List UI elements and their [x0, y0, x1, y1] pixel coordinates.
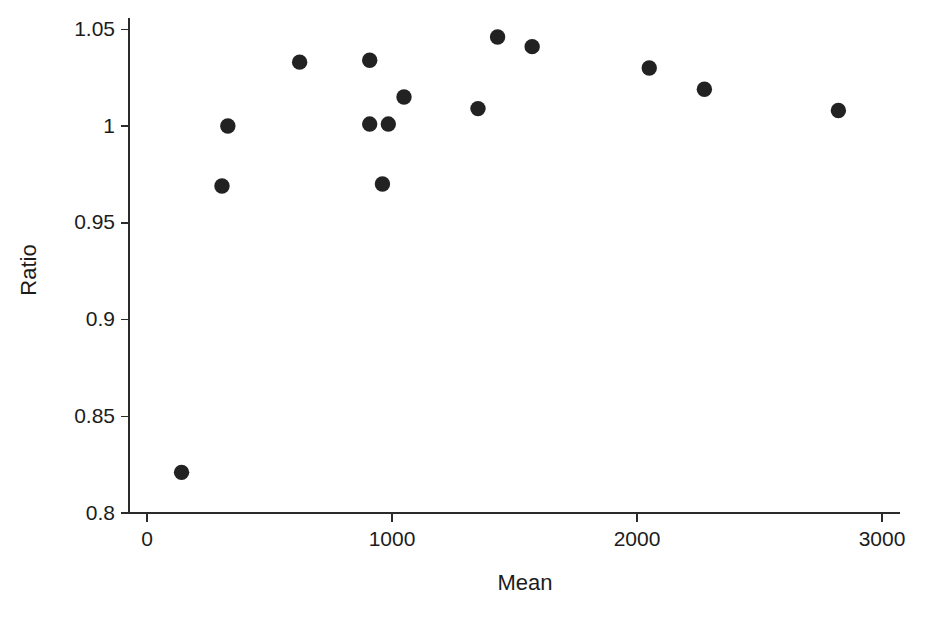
y-tick-label: 1.05 [74, 17, 115, 40]
scatter-point [490, 29, 505, 44]
y-tick-label: 0.85 [74, 404, 115, 427]
x-tick-label: 0 [141, 527, 153, 550]
y-axis-title: Ratio [16, 244, 41, 295]
x-tick-label: 1000 [369, 527, 416, 550]
scatter-point [362, 116, 377, 131]
scatter-point [642, 60, 657, 75]
scatter-point [396, 89, 411, 104]
scatter-point [524, 39, 539, 54]
scatter-point [292, 54, 307, 69]
plot-canvas: 0.80.850.90.9511.05 0100020003000 Mean R… [0, 0, 943, 618]
y-tick-label: 0.9 [86, 307, 115, 330]
scatter-point [375, 176, 390, 191]
x-axis: 0100020003000 [129, 513, 905, 550]
y-axis: 0.80.850.90.9511.05 [74, 17, 129, 524]
data-points-layer [174, 29, 846, 480]
x-tick-label: 2000 [614, 527, 661, 550]
y-tick-label: 1 [103, 114, 115, 137]
y-tick-label: 0.8 [86, 501, 115, 524]
scatter-point [214, 178, 229, 193]
scatter-point [381, 116, 396, 131]
scatter-point [697, 82, 712, 97]
scatter-point [362, 53, 377, 68]
x-tick-label: 3000 [859, 527, 906, 550]
x-axis-title: Mean [497, 570, 552, 595]
scatter-point [470, 101, 485, 116]
scatter-point [174, 465, 189, 480]
scatter-plot-figure: 0.80.850.90.9511.05 0100020003000 Mean R… [0, 0, 943, 618]
scatter-point [220, 118, 235, 133]
scatter-point [831, 103, 846, 118]
y-tick-label: 0.95 [74, 210, 115, 233]
